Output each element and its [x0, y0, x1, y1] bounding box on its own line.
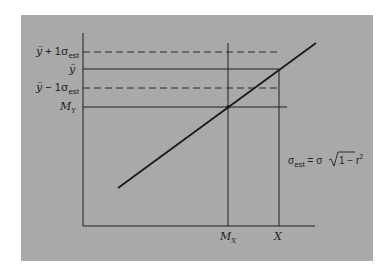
label-predicted-y: ỹ: [68, 63, 76, 76]
means-intersection-point: [226, 105, 230, 109]
label-x-value: X: [273, 230, 283, 243]
regression-diagram: ỹ + 1σest ỹ ỹ − 1σest MY MX X σest = σ 1…: [0, 0, 392, 273]
